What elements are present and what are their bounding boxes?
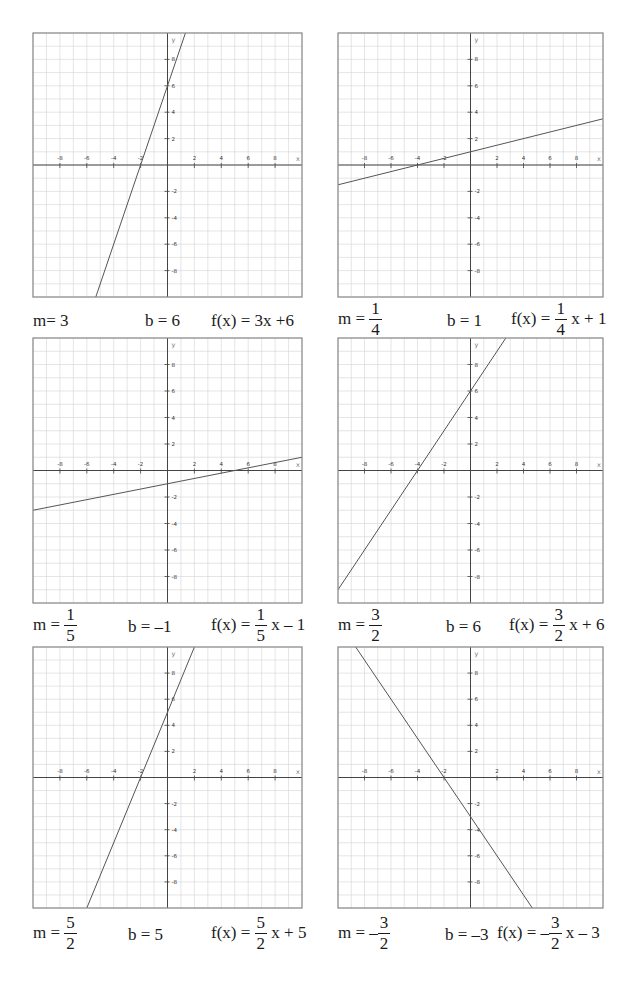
x-tick-label: 8 — [273, 155, 277, 161]
x-tick-label: 8 — [273, 768, 277, 774]
y-axis-label: y — [172, 36, 176, 44]
f-rest: x + 6 — [569, 615, 604, 634]
m-denominator: 2 — [378, 934, 391, 954]
x-tick-label: -2 — [441, 461, 446, 467]
f-numerator: 1 — [555, 299, 568, 319]
y-tick-label: -4 — [172, 215, 178, 221]
x-tick-label: 4 — [220, 155, 224, 161]
y-tick-label: -4 — [172, 827, 178, 833]
y-tick-label: -8 — [475, 268, 481, 274]
y-tick-label: -8 — [172, 574, 178, 580]
x-axis-label: x — [597, 461, 601, 469]
x-tick-label: 6 — [548, 768, 552, 774]
m-denominator: 5 — [64, 626, 77, 646]
f-numerator: 5 — [255, 913, 268, 933]
x-tick-label: -2 — [441, 768, 446, 774]
m-numerator: 3 — [378, 913, 391, 933]
y-tick-label: 6 — [475, 83, 479, 89]
y-tick-label: 6 — [172, 388, 176, 394]
f-rest: x – 1 — [271, 615, 305, 634]
x-tick-label: 6 — [548, 155, 552, 161]
y-axis-label: y — [475, 36, 479, 44]
m-fraction: 32 — [369, 605, 382, 646]
b-value: 1 — [474, 311, 483, 330]
m-fraction: 52 — [64, 913, 77, 954]
b-value: –1 — [155, 617, 172, 636]
graph-6: -8-6-4-224688642-2-4-6-8xy — [338, 647, 603, 908]
y-tick-label: -4 — [475, 521, 481, 527]
x-tick-label: -6 — [388, 461, 394, 467]
y-tick-label: 4 — [172, 109, 176, 115]
y-tick-label: -8 — [475, 879, 481, 885]
x-tick-label: 4 — [522, 461, 526, 467]
y-tick-label: -4 — [475, 215, 481, 221]
x-tick-label: 6 — [548, 461, 552, 467]
y-tick-label: 2 — [475, 748, 479, 754]
graph-4: -8-6-4-224688642-2-4-6-8xy — [338, 338, 603, 603]
caption-2-intercept: b = 1 — [447, 311, 482, 331]
f-numerator: 3 — [553, 605, 566, 625]
x-tick-label: -8 — [362, 461, 368, 467]
graph-1-svg: -8-6-4-224688642-2-4-6-8xy — [33, 33, 302, 297]
caption-1-slope: m= 3 — [33, 311, 69, 331]
y-tick-label: 8 — [172, 670, 176, 676]
m-denominator: 2 — [64, 934, 77, 954]
y-tick-label: -8 — [172, 268, 178, 274]
f-rest: x + 1 — [571, 309, 606, 328]
caption-4-slope: m = 32 — [338, 606, 382, 647]
x-tick-label: -8 — [57, 768, 63, 774]
y-tick-label: 4 — [475, 415, 479, 421]
f-fraction: 14 — [555, 299, 568, 340]
f-fraction: 15 — [255, 605, 268, 646]
y-axis-label: y — [172, 341, 176, 349]
x-tick-label: 2 — [495, 155, 499, 161]
caption-3-slope: m = 15 — [33, 606, 77, 647]
caption-5-function: f(x) = 52 x + 5 — [211, 914, 306, 955]
b-label: b = — [446, 617, 468, 636]
m-numerator: 3 — [369, 605, 382, 625]
f-fraction: 32 — [553, 605, 566, 646]
caption-2-slope: m = 14 — [338, 300, 382, 341]
caption-5-intercept: b = 5 — [128, 925, 163, 945]
m-value: 3 — [60, 311, 69, 330]
caption-6-function: f(x) = –32 x – 3 — [497, 914, 600, 955]
f-label: f(x) = — [211, 923, 250, 942]
f-label: f(x) = — [211, 311, 250, 330]
f-label: f(x) = — [509, 615, 548, 634]
y-axis-label: y — [475, 650, 479, 658]
x-tick-label: 8 — [575, 155, 579, 161]
y-axis-label: y — [172, 650, 176, 658]
x-tick-label: -8 — [362, 768, 368, 774]
x-tick-label: -4 — [415, 461, 421, 467]
x-tick-label: -8 — [57, 461, 63, 467]
y-tick-label: 2 — [172, 136, 176, 142]
f-label: f(x) = — [211, 615, 250, 634]
x-tick-label: 6 — [246, 155, 250, 161]
y-tick-label: 2 — [475, 136, 479, 142]
graph-5-svg: -8-6-4-224688642-2-4-6-8xy — [33, 647, 302, 908]
y-tick-label: 6 — [475, 388, 479, 394]
caption-6-intercept: b = –3 — [445, 925, 489, 945]
y-tick-label: 4 — [172, 415, 176, 421]
x-tick-label: -8 — [362, 155, 368, 161]
x-tick-label: -4 — [111, 461, 117, 467]
f-rest: x – 3 — [566, 923, 600, 942]
f-denominator: 2 — [553, 626, 566, 646]
y-tick-label: 6 — [475, 696, 479, 702]
x-tick-label: -2 — [138, 461, 143, 467]
y-tick-label: 8 — [475, 670, 479, 676]
m-label: m = — [33, 923, 60, 942]
caption-4-intercept: b = 6 — [446, 617, 481, 637]
b-value: 5 — [155, 925, 164, 944]
y-tick-label: 8 — [172, 362, 176, 368]
x-tick-label: 2 — [495, 768, 499, 774]
x-tick-label: -4 — [111, 155, 117, 161]
x-axis-label: x — [597, 768, 601, 776]
m-numerator: 1 — [64, 605, 77, 625]
b-label: b = — [145, 311, 167, 330]
y-axis-label: y — [475, 341, 479, 349]
y-tick-label: -6 — [172, 547, 178, 553]
b-label: b = — [445, 925, 467, 944]
f-numerator: 3 — [549, 913, 562, 933]
x-tick-label: -6 — [84, 155, 90, 161]
